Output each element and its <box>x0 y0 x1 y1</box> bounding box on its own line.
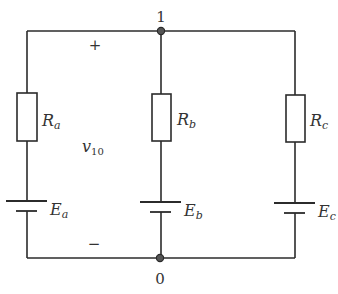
node-0-dot <box>156 254 163 261</box>
resistor-ra-label: Ra <box>41 111 61 132</box>
resistor-ra <box>17 93 37 141</box>
branch-a <box>6 31 47 258</box>
node-1-label: 1 <box>156 8 166 26</box>
source-eb-label: Eb <box>183 201 203 222</box>
resistor-rb-label: Rb <box>176 110 196 131</box>
plus-sign: + <box>89 36 102 54</box>
source-ec-label: Ec <box>317 202 336 223</box>
resistor-rb <box>152 94 171 141</box>
voltage-label: v10 <box>82 137 104 157</box>
branch-b <box>140 31 181 258</box>
branch-c <box>274 31 315 258</box>
resistor-rc <box>286 95 305 142</box>
minus-sign: − <box>88 235 101 253</box>
resistor-rc-label: Rc <box>309 111 328 132</box>
circuit-svg: 1 0 + − v10 Ra Rb Rc Ea Eb Ec <box>0 0 338 294</box>
node-1-dot <box>157 27 164 34</box>
circuit-diagram: 1 0 + − v10 Ra Rb Rc Ea Eb Ec <box>0 0 338 294</box>
source-ea-label: Ea <box>49 200 68 221</box>
node-0-label: 0 <box>155 270 165 288</box>
